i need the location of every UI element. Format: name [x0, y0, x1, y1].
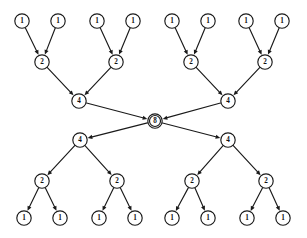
node-label: 4	[77, 97, 81, 105]
node-label: 4	[226, 97, 230, 105]
node-label: 1	[95, 17, 99, 25]
tree-node[interactable]: 1	[275, 14, 289, 28]
node-label: 1	[22, 214, 26, 222]
tree-node[interactable]: 2	[259, 174, 273, 188]
node-label: 2	[263, 58, 267, 66]
node-label: 4	[226, 136, 230, 144]
tree-edge	[175, 28, 186, 51]
tree-node[interactable]: 4	[221, 94, 235, 108]
tree-node[interactable]: 2	[109, 55, 123, 69]
tree-edge	[166, 103, 220, 118]
tree-edge	[236, 68, 260, 93]
tree-edge	[195, 188, 203, 207]
tree-node[interactable]: 2	[258, 55, 272, 69]
tree-node[interactable]: 2	[185, 174, 199, 188]
tree-edge	[47, 68, 71, 93]
node-label: 2	[40, 58, 44, 66]
tree-node[interactable]: 1	[128, 211, 142, 225]
tree-edge	[29, 188, 38, 207]
node-label: 1	[245, 214, 249, 222]
tree-node[interactable]: 2	[35, 55, 49, 69]
node-label: 1	[206, 17, 210, 25]
node-label: 1	[170, 214, 174, 222]
tree-edge	[269, 188, 278, 207]
node-label: 2	[40, 177, 44, 185]
edge-arrowhead	[163, 116, 168, 120]
node-label: 1	[20, 17, 24, 25]
tree-node[interactable]: 1	[240, 211, 254, 225]
node-label: 1	[131, 17, 135, 25]
tree-edge	[91, 123, 147, 137]
nodes-layer: 11111111222244844222211111111	[15, 14, 290, 225]
tree-edge	[120, 188, 129, 207]
node-label: 2	[190, 177, 194, 185]
edge-arrowhead	[88, 135, 93, 139]
node-label: 1	[206, 214, 210, 222]
tree-node[interactable]: 1	[51, 14, 65, 28]
tree-edge	[120, 28, 130, 51]
tree-node[interactable]: 4	[72, 94, 86, 108]
tree-edge	[196, 68, 220, 93]
tree-node[interactable]: 1	[165, 14, 179, 28]
tree-edge	[178, 188, 189, 208]
tree-node[interactable]: 1	[165, 211, 179, 225]
tree-node[interactable]: 4	[221, 133, 235, 147]
node-label: 1	[97, 214, 101, 222]
tree-edge	[163, 123, 217, 137]
node-label: 1	[170, 17, 174, 25]
node-label: 2	[264, 177, 268, 185]
tree-node[interactable]: 2	[184, 55, 198, 69]
tree-edge	[87, 68, 111, 93]
tree-node[interactable]: 2	[110, 174, 124, 188]
tree-edge	[233, 146, 258, 173]
tree-edge	[45, 188, 54, 207]
tree-node[interactable]: 1	[276, 211, 290, 225]
tree-edge	[46, 28, 55, 51]
node-label: 1	[280, 17, 284, 25]
tree-edge	[269, 28, 279, 51]
tree-diagram-canvas: 11111111222244844222211111111	[0, 0, 307, 238]
tree-node[interactable]: 1	[92, 211, 106, 225]
tree-edge	[25, 28, 36, 51]
tree-node[interactable]: 2	[35, 174, 49, 188]
tree-edge	[87, 103, 144, 118]
tree-node[interactable]: 1	[239, 14, 253, 28]
tree-node[interactable]: 1	[126, 14, 140, 28]
node-label: 8	[153, 117, 157, 125]
tree-node[interactable]: 1	[201, 14, 215, 28]
tree-node[interactable]: 4	[73, 133, 87, 147]
edge-arrowhead	[215, 135, 220, 139]
node-label: 2	[114, 58, 118, 66]
tree-diagram-svg: 11111111222244844222211111111	[0, 0, 307, 238]
tree-node[interactable]: 1	[201, 211, 215, 225]
node-label: 2	[189, 58, 193, 66]
tree-edge	[249, 28, 260, 51]
edge-arrowhead	[142, 116, 147, 120]
node-label: 1	[244, 17, 248, 25]
tree-edge	[104, 188, 113, 207]
node-label: 1	[58, 214, 62, 222]
tree-edge	[100, 28, 111, 51]
node-label: 1	[56, 17, 60, 25]
node-label: 2	[115, 177, 119, 185]
node-label: 1	[281, 214, 285, 222]
tree-node[interactable]: 1	[53, 211, 67, 225]
tree-edge	[195, 28, 205, 51]
tree-node[interactable]: 8	[148, 114, 162, 128]
tree-edge	[200, 146, 223, 172]
node-label: 1	[133, 214, 137, 222]
tree-edge	[252, 188, 262, 208]
tree-node[interactable]: 1	[90, 14, 104, 28]
tree-node[interactable]: 1	[15, 14, 29, 28]
tree-node[interactable]: 1	[17, 211, 31, 225]
tree-edge	[50, 146, 75, 173]
tree-edge	[85, 146, 109, 173]
node-label: 4	[78, 136, 82, 144]
